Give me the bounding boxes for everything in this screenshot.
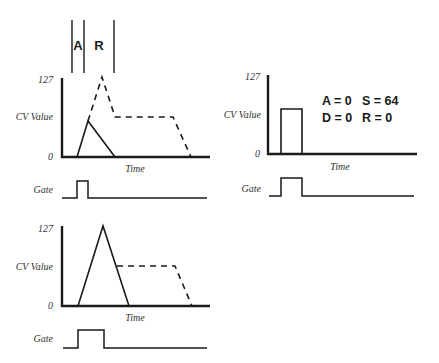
param-attack: A = 0	[322, 94, 352, 108]
envelope-sustain-dashed	[117, 266, 192, 306]
gate-label: Gate	[34, 184, 54, 195]
y-max-label: 127	[38, 74, 54, 85]
envelope-diagram: A R 127 CV Value 0 Time Gate 127 CV Valu…	[0, 0, 439, 363]
y-axis-label: CV Value	[16, 111, 54, 122]
param-decay: D = 0	[322, 111, 352, 125]
envelope-actual	[77, 121, 115, 157]
adsr-parameters: A = 0 S = 64 D = 0 R = 0	[322, 94, 399, 125]
phase-markers: A R	[72, 20, 114, 73]
y-axis-label: CV Value	[224, 109, 262, 120]
y-max-label: 127	[245, 71, 261, 82]
gate-signal	[63, 330, 207, 348]
y-min-label: 0	[48, 151, 53, 162]
param-release: R = 0	[362, 111, 392, 125]
gate-signal	[62, 181, 207, 198]
attack-marker-label: A	[73, 38, 83, 53]
y-axis-label: CV Value	[16, 261, 54, 272]
release-marker-label: R	[94, 38, 104, 53]
envelope-full-adsr-dashed	[88, 77, 191, 157]
gate-label: Gate	[242, 183, 262, 194]
panel-top-left: 127 CV Value 0 Time Gate	[16, 74, 210, 198]
x-axis-label: Time	[125, 163, 145, 174]
y-min-label: 0	[255, 148, 260, 159]
envelope-actual	[281, 109, 302, 154]
y-max-label: 127	[38, 223, 54, 234]
axes	[62, 226, 210, 306]
panel-top-right: 127 CV Value 0 A = 0 S = 64 D = 0 R = 0 …	[224, 71, 417, 196]
axes	[62, 78, 210, 157]
gate-label: Gate	[34, 333, 54, 344]
x-axis-label: Time	[125, 312, 145, 323]
panel-bottom-left: 127 CV Value 0 Time Gate	[16, 223, 210, 348]
gate-signal	[269, 178, 414, 196]
param-sustain: S = 64	[362, 94, 399, 108]
x-axis-label: Time	[330, 161, 350, 172]
y-min-label: 0	[48, 300, 53, 311]
